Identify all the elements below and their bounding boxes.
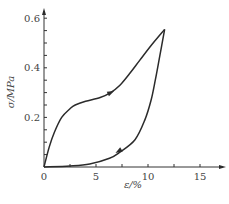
ticks	[44, 18, 200, 167]
loading-curve	[44, 29, 165, 167]
x-axis-arrow-icon	[219, 165, 226, 169]
unloading-curve	[44, 29, 165, 167]
y-axis-arrow-icon	[42, 8, 46, 15]
axes	[42, 8, 226, 169]
tick-labels: 0510150.20.40.6	[24, 13, 206, 182]
stress-strain-chart: 0510150.20.40.6 ε/% σ/MPa	[0, 0, 229, 204]
x-tick-label: 5	[93, 171, 99, 182]
x-tick-label: 10	[142, 171, 155, 182]
y-axis-title: σ/MPa	[5, 76, 16, 109]
hysteresis-curves	[44, 29, 165, 167]
x-tick-label: 15	[194, 171, 207, 182]
y-tick-label: 0.2	[24, 112, 40, 123]
direction-arrows	[107, 89, 123, 155]
x-tick-label: 0	[41, 171, 47, 182]
y-tick-label: 0.6	[24, 13, 40, 24]
x-axis-title: ε/%	[124, 179, 142, 190]
y-tick-label: 0.4	[24, 62, 40, 73]
